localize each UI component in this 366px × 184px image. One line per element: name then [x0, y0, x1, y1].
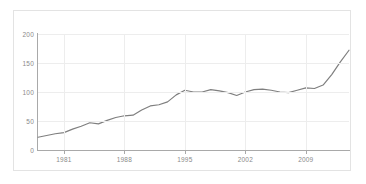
y-tick-label: 0: [10, 147, 34, 154]
gridline-horizontal: [38, 121, 349, 122]
gridline-horizontal: [38, 34, 349, 35]
x-tick-label: 1981: [49, 156, 79, 164]
gridline-vertical: [185, 34, 186, 150]
x-tick-mark: [245, 151, 246, 154]
x-tick-label: 2002: [230, 156, 260, 164]
gridline-vertical: [306, 34, 307, 150]
gridline-vertical: [124, 34, 125, 150]
x-tick-mark: [306, 151, 307, 154]
chart-frame: 050100150200 19811988199520022009: [13, 10, 351, 171]
y-tick-label: 200: [10, 31, 34, 38]
plot-area: [38, 34, 349, 150]
x-tick-label: 1988: [109, 156, 139, 164]
y-tick-label: 100: [10, 89, 34, 96]
x-axis-line: [37, 150, 350, 151]
gridline-vertical: [245, 34, 246, 150]
gridline-vertical: [64, 34, 65, 150]
x-tick-mark: [64, 151, 65, 154]
x-tick-label: 1995: [170, 156, 200, 164]
y-tick-label: 150: [10, 60, 34, 67]
gridline-horizontal: [38, 63, 349, 64]
y-tick-label: 50: [10, 118, 34, 125]
y-axis-tick-labels: 050100150200: [14, 11, 34, 170]
gridline-horizontal: [38, 92, 349, 93]
chart-screenshot: 050100150200 19811988199520022009: [0, 0, 366, 184]
x-tick-label: 2009: [291, 156, 321, 164]
x-tick-mark: [185, 151, 186, 154]
x-tick-mark: [124, 151, 125, 154]
